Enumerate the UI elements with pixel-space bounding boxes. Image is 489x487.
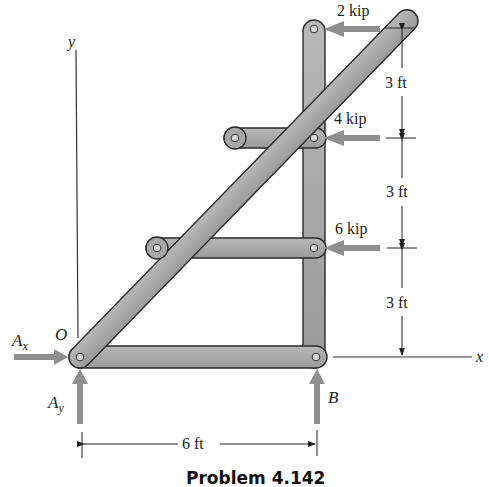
pin-4kip: [310, 134, 318, 142]
dimension-label-middle: 3 ft: [386, 183, 408, 200]
pin-o: [76, 353, 84, 361]
x-axis-label: x: [475, 348, 483, 365]
y-axis-label: y: [66, 33, 76, 51]
reaction-label-b: B: [328, 388, 339, 407]
pin-diag-lower: [153, 244, 161, 252]
arrow-b: [309, 369, 325, 424]
pin-diag-upper: [231, 134, 239, 142]
arrow-2kip: [324, 21, 380, 37]
load-label-6kip: 6 kip: [335, 220, 367, 238]
y-axis: [76, 50, 78, 338]
frame-diagram: 2 kip 4 kip 6 kip 3 ft 3 ft 3 ft 6 ft y …: [0, 0, 489, 487]
member-vertical-right: [303, 20, 325, 368]
arrow-4kip: [324, 130, 380, 146]
pin-b: [312, 353, 320, 361]
load-label-2kip: 2 kip: [337, 2, 369, 20]
truss-members: [64, 5, 422, 372]
figure-caption: Problem 4.142: [186, 468, 325, 487]
origin-label: O: [55, 325, 67, 344]
dimension-label-horizontal: 6 ft: [182, 435, 204, 452]
dimension-label-bottom: 3 ft: [386, 294, 408, 311]
arrow-6kip: [324, 240, 380, 256]
member-diagonal: [64, 5, 422, 372]
reaction-label-ay: Ay: [47, 393, 64, 415]
reaction-label-ax: Ax: [11, 331, 28, 353]
arrow-ay: [72, 369, 88, 424]
member-bottom: [69, 346, 327, 368]
pin-top: [310, 25, 318, 33]
dimension-label-top: 3 ft: [385, 74, 407, 91]
load-label-4kip: 4 kip: [334, 110, 366, 128]
pin-6kip: [310, 244, 318, 252]
